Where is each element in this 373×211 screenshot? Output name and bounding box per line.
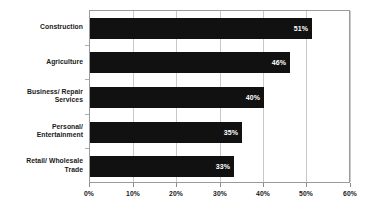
gridline (350, 11, 351, 182)
x-axis-tick (220, 183, 221, 187)
x-axis-label: 30% (200, 190, 240, 197)
bar-value-label: 51% (294, 25, 312, 32)
x-axis-label: 50% (286, 190, 326, 197)
y-axis-tick (85, 148, 89, 149)
category-label-line: Retail/ Wholesale (0, 157, 83, 166)
bar: 46% (90, 52, 290, 73)
bar-value-label: 33% (216, 163, 234, 170)
plot-area: 51%46%40%35%33% (89, 10, 350, 183)
category-label-line: Entertainment (0, 131, 83, 140)
bar: 51% (90, 18, 312, 39)
bar-value-label: 40% (246, 94, 264, 101)
category-label: Retail/ WholesaleTrade (0, 157, 83, 174)
bar: 35% (90, 122, 242, 143)
category-label-line: Construction (0, 23, 83, 32)
category-label-line: Services (0, 96, 83, 105)
x-axis-tick (133, 183, 134, 187)
y-axis-tick (85, 79, 89, 80)
category-label-line: Agriculture (0, 58, 83, 67)
category-label: Business/ RepairServices (0, 88, 83, 105)
y-axis-tick (85, 114, 89, 115)
x-axis-label: 0% (69, 190, 109, 197)
bar-value-label: 35% (224, 129, 242, 136)
category-axis-labels: ConstructionAgricultureBusiness/ RepairS… (0, 10, 86, 183)
category-label-line: Business/ Repair (0, 88, 83, 97)
horizontal-bar-chart: ConstructionAgricultureBusiness/ RepairS… (0, 0, 373, 211)
category-label-line: Personal/ (0, 123, 83, 132)
x-axis-tick (263, 183, 264, 187)
x-axis-label: 60% (330, 190, 370, 197)
x-axis-tick (176, 183, 177, 187)
category-label: Agriculture (0, 58, 83, 67)
x-axis-label: 10% (113, 190, 153, 197)
bar: 33% (90, 156, 234, 177)
x-axis-tick (89, 183, 90, 187)
category-label-line: Trade (0, 166, 83, 175)
bar-value-label: 46% (272, 59, 290, 66)
x-axis-tick (306, 183, 307, 187)
category-label: Construction (0, 23, 83, 32)
y-axis-tick (85, 45, 89, 46)
category-label: Personal/Entertainment (0, 123, 83, 140)
x-axis-tick (350, 183, 351, 187)
x-axis-label: 20% (156, 190, 196, 197)
x-axis-label: 40% (243, 190, 283, 197)
bar: 40% (90, 87, 264, 108)
